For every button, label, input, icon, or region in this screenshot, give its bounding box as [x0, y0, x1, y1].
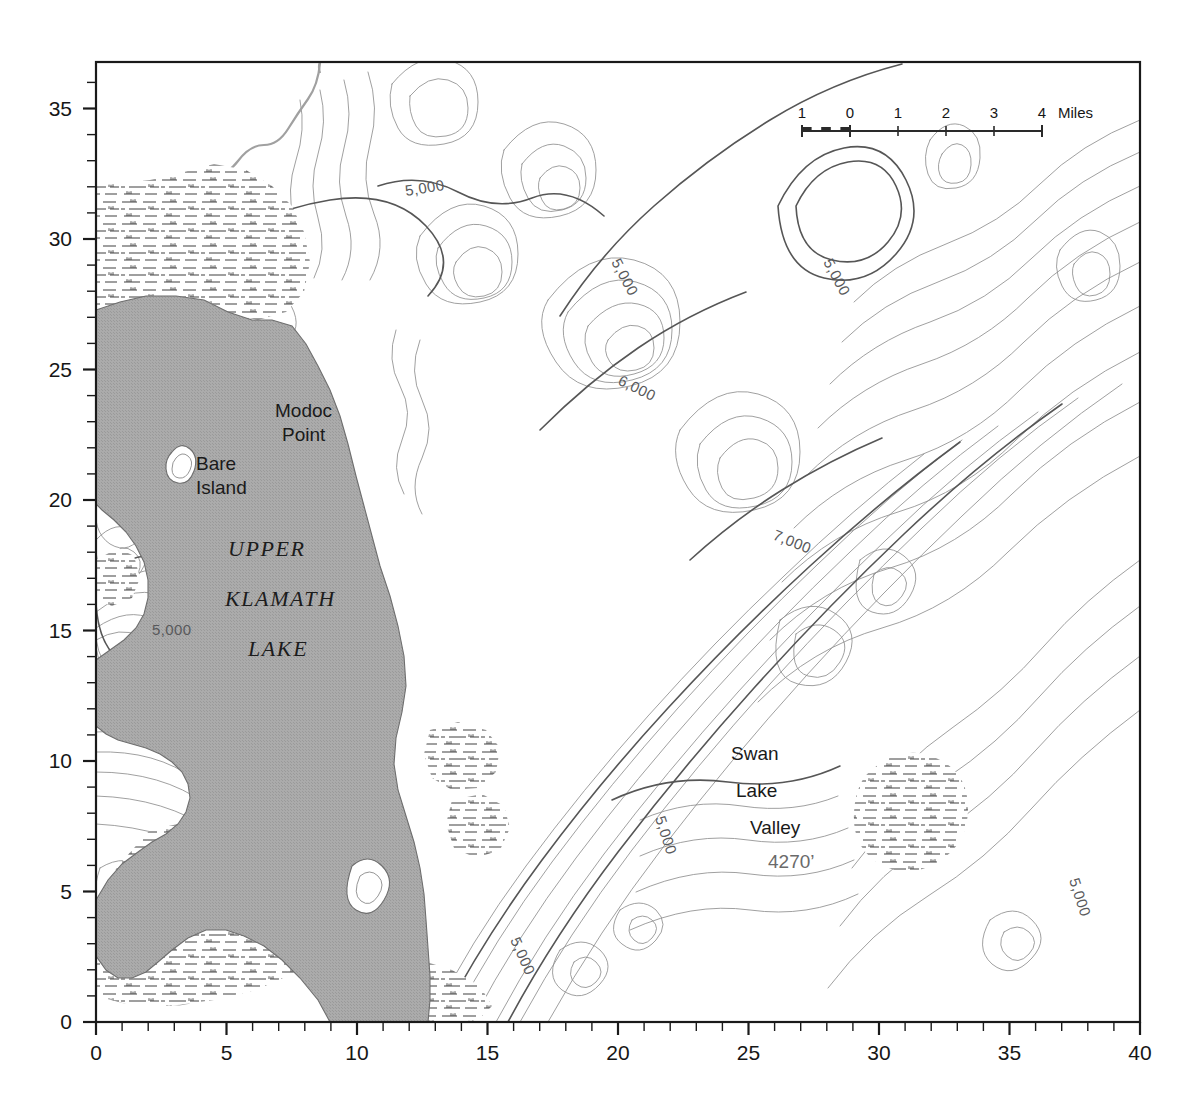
place-label-line: Valley — [750, 817, 801, 838]
y-tick-label: 35 — [49, 97, 72, 120]
y-tick-label: 10 — [49, 749, 72, 772]
place-label-line: Bare — [196, 453, 236, 474]
x-tick-label: 0 — [90, 1041, 102, 1064]
scale-tick-label: 4 — [1038, 104, 1046, 121]
place-label-line: Lake — [736, 780, 777, 801]
topographic-map-figure: 5,000 5,000 5,000 6,000 7,000 5,000 5,00… — [0, 0, 1190, 1110]
y-axis-major-ticks — [83, 109, 96, 1023]
scale-tick-label: 3 — [990, 104, 998, 121]
scale-tick-label: 1 — [798, 104, 806, 121]
contour-label: 5,000 — [152, 621, 192, 638]
x-tick-label: 10 — [345, 1041, 368, 1064]
x-axis — [96, 1022, 1140, 1035]
x-tick-label: 30 — [867, 1041, 890, 1064]
y-tick-label: 20 — [49, 488, 72, 511]
y-axis-tick-labels: 0 5 10 15 20 25 30 35 — [49, 97, 72, 1034]
x-tick-label: 15 — [476, 1041, 499, 1064]
y-tick-label: 30 — [49, 227, 72, 250]
y-tick-label: 0 — [60, 1010, 72, 1033]
place-label-line: Island — [196, 477, 247, 498]
scale-tick-label: 2 — [942, 104, 950, 121]
x-tick-label: 5 — [221, 1041, 233, 1064]
x-tick-label: 40 — [1128, 1041, 1151, 1064]
y-tick-label: 25 — [49, 358, 72, 381]
map-plot-area: 5,000 5,000 5,000 6,000 7,000 5,000 5,00… — [94, 58, 1140, 1022]
y-axis — [83, 82, 96, 1022]
place-label-line: Point — [282, 424, 326, 445]
lake-label-line: LAKE — [247, 636, 308, 661]
scale-tick-label: 1 — [894, 104, 902, 121]
x-axis-tick-labels: 0 5 10 15 20 25 30 35 40 — [90, 1041, 1152, 1064]
x-tick-label: 35 — [998, 1041, 1021, 1064]
lake-label-line: UPPER — [228, 536, 306, 561]
x-tick-label: 25 — [737, 1041, 760, 1064]
x-tick-label: 20 — [606, 1041, 629, 1064]
scale-tick-label: 0 — [846, 104, 854, 121]
lake-label-line: KLAMATH — [224, 586, 336, 611]
map-canvas: 5,000 5,000 5,000 6,000 7,000 5,000 5,00… — [0, 0, 1190, 1110]
y-axis-minor-ticks — [87, 82, 96, 996]
place-label-line: Modoc — [275, 400, 332, 421]
y-tick-label: 5 — [60, 880, 72, 903]
place-label-line: Swan — [731, 743, 779, 764]
elevation-spot-label: 4270’ — [768, 851, 815, 872]
y-tick-label: 15 — [49, 619, 72, 642]
scale-unit-label: Miles — [1058, 104, 1093, 121]
scale-bar-subdivisions — [802, 127, 850, 132]
